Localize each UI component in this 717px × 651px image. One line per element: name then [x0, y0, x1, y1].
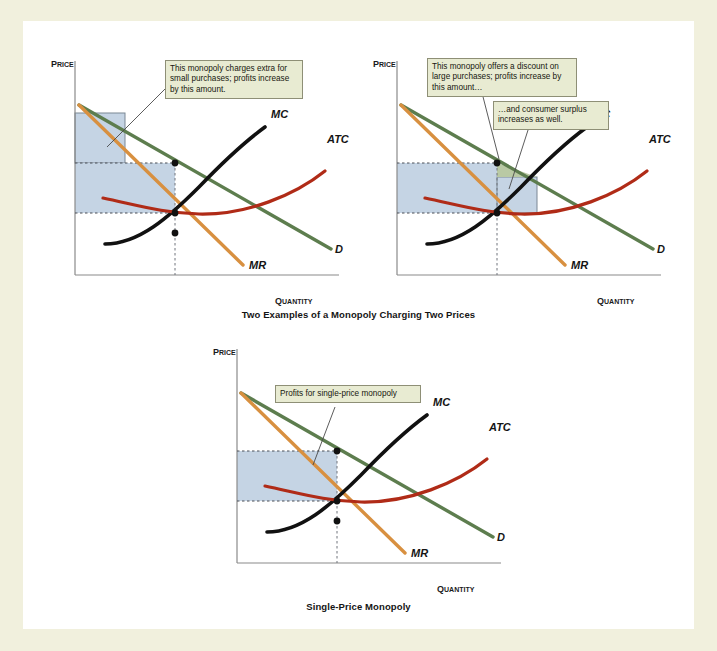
- caption-two-examples: Two Examples of a Monopoly Charging Two …: [23, 309, 694, 320]
- curve-label-demand: D: [497, 531, 505, 543]
- curve-label-mc: MC: [433, 396, 450, 408]
- callout-single-price-profits: Profits for single-price monopoly: [275, 385, 421, 403]
- curve-label-demand: D: [335, 243, 343, 255]
- caption-single-price-monopoly: Single-Price Monopoly: [23, 601, 694, 612]
- figure-frame: PRICE QUANTITY: [0, 0, 717, 651]
- curve-label-demand: D: [657, 243, 665, 255]
- point-monopoly-price: [334, 448, 341, 455]
- chart-svg-panel-3: [209, 335, 509, 595]
- point-average-total-cost: [494, 210, 501, 217]
- curve-label-mr: MR: [249, 259, 266, 271]
- curve-label-mr: MR: [571, 259, 588, 271]
- callout-discount-large-purchases: This monopoly offers a discount on large…: [427, 58, 577, 97]
- curve-label-atc: ATC: [489, 421, 511, 433]
- curve-label-atc: ATC: [327, 133, 349, 145]
- fill-single-price-profit: [397, 163, 497, 213]
- fill-extra-profit-small-purchases: [75, 113, 125, 163]
- callout-consumer-surplus: …and consumer surplus increases as well.: [493, 101, 609, 130]
- curve-label-mc: MC: [271, 108, 288, 120]
- point-average-total-cost: [172, 210, 179, 217]
- panel-monopoly-two-part-high-price: PRICE QUANTITY: [47, 47, 347, 307]
- curve-label-atc: ATC: [649, 133, 671, 145]
- fill-single-price-profit: [75, 163, 175, 213]
- curve-label-mr: MR: [411, 547, 428, 559]
- point-mr-equals-mc: [334, 518, 341, 525]
- panel-single-price-monopoly: PRICE QUANTITY MC: [209, 335, 509, 595]
- point-monopoly-price: [172, 160, 179, 167]
- figure-canvas: PRICE QUANTITY: [23, 21, 694, 629]
- point-monopoly-price: [494, 160, 501, 167]
- panel-monopoly-discount-large-purchases: PRICE QUANTITY: [369, 47, 669, 307]
- point-average-total-cost: [334, 498, 341, 505]
- fill-single-price-profit: [237, 451, 337, 501]
- fill-extra-profit-large-purchases: [497, 177, 537, 213]
- point-mr-equals-mc: [172, 230, 179, 237]
- callout-extra-small-purchases: This monopoly charges extra for small pu…: [165, 60, 303, 99]
